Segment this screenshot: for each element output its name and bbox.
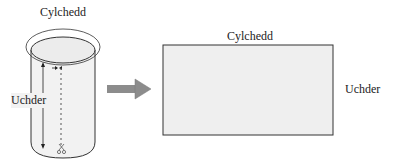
rectangle-top-label: Cylchedd	[227, 29, 273, 44]
diagram-canvas	[0, 0, 400, 162]
rectangle-side-label: Uchder	[345, 82, 380, 97]
transform-arrow	[107, 79, 151, 99]
cylinder-circumference-label: Cylchedd	[40, 5, 86, 20]
unrolled-rectangle	[163, 45, 333, 135]
cylinder-height-label: Uchder	[11, 93, 46, 108]
